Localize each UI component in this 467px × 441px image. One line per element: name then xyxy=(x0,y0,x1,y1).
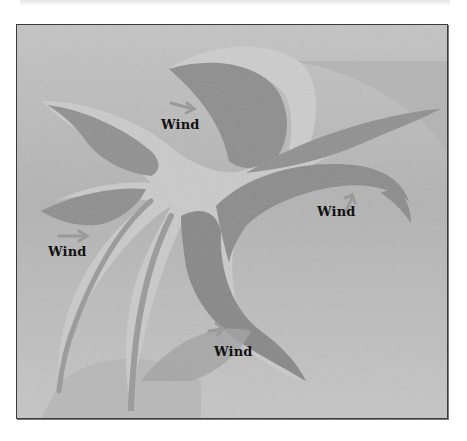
wind-label-top: Wind xyxy=(161,117,200,132)
wind-label-left: Wind xyxy=(48,244,87,259)
wind-sketch-drawing xyxy=(17,25,447,418)
wind-label-bottom: Wind xyxy=(214,344,253,359)
illustration-frame: Wind Wind Wind Wind xyxy=(16,24,448,419)
top-scan-strip xyxy=(20,0,450,6)
wind-label-right: Wind xyxy=(317,204,356,219)
